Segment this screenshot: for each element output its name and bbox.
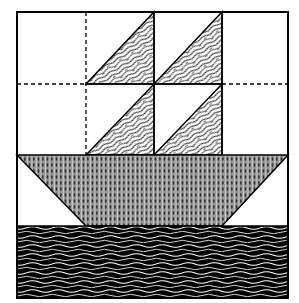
water [17, 226, 288, 298]
sailboat-block-svg [0, 0, 299, 303]
quilt-block-diagram: sailboat [0, 0, 299, 303]
